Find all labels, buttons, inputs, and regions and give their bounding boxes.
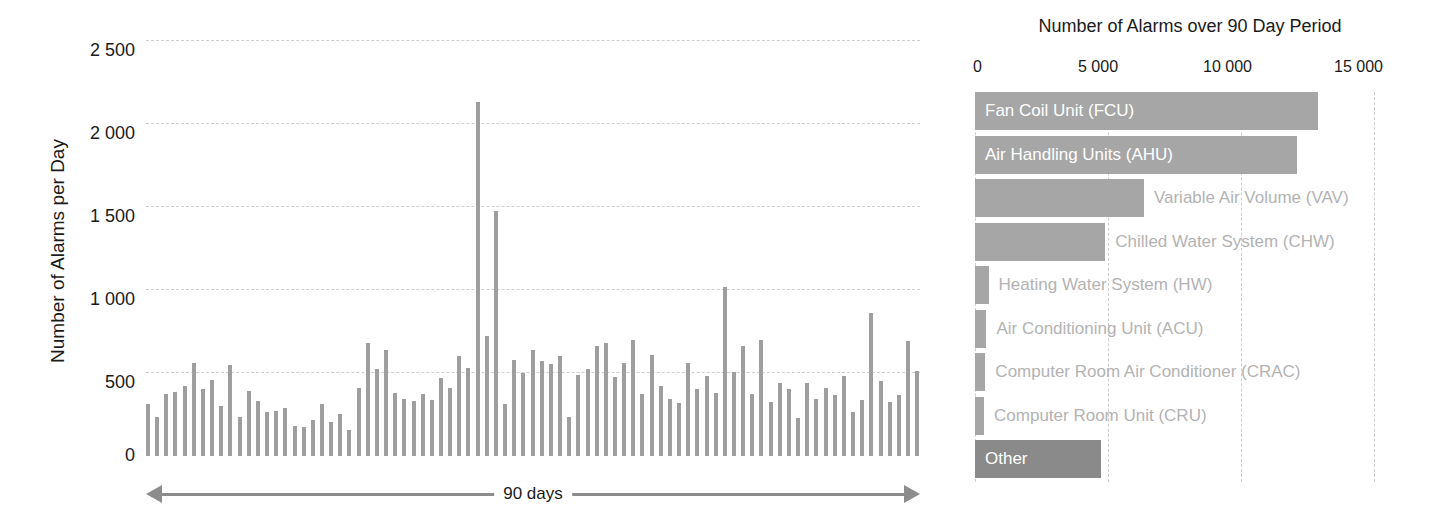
y-tick-500: 500 <box>35 372 135 393</box>
x-axis-title: 90 days <box>494 482 572 506</box>
system-bar-row: Other <box>975 440 1375 478</box>
day-bar <box>723 287 727 456</box>
day-bar <box>384 350 388 456</box>
alarms-by-system-chart: Number of Alarms over 90 Day Period 0 5 … <box>960 0 1441 532</box>
system-bar <box>975 310 986 348</box>
day-bar <box>787 389 791 456</box>
system-bar-row: Variable Air Volume (VAV) <box>975 179 1375 217</box>
day-bar <box>457 356 461 456</box>
system-bar: Fan Coil Unit (FCU) <box>975 92 1318 130</box>
day-bar <box>192 363 196 456</box>
day-bar <box>485 336 489 456</box>
system-bar-row: Heating Water System (HW) <box>975 266 1375 304</box>
day-bar <box>146 404 150 456</box>
x-tick-5000: 5 000 <box>1078 58 1118 76</box>
system-bar <box>975 266 989 304</box>
day-bar <box>466 368 470 456</box>
day-bar <box>842 376 846 456</box>
day-bar <box>210 380 214 456</box>
day-bar <box>448 388 452 456</box>
day-bar <box>293 426 297 456</box>
day-bar <box>173 392 177 456</box>
day-bar <box>650 355 654 457</box>
day-bar <box>750 394 754 456</box>
day-bar <box>412 401 416 456</box>
day-bar <box>503 404 507 456</box>
y-tick-2500: 2 500 <box>35 40 135 61</box>
arrow-right-icon <box>904 485 920 503</box>
day-bar <box>540 361 544 456</box>
arrow-left-icon <box>146 485 162 503</box>
day-bar <box>879 381 883 456</box>
day-bar <box>677 403 681 456</box>
system-bar-label: Chilled Water System (CHW) <box>1105 232 1334 252</box>
day-bar <box>869 313 873 456</box>
day-bar <box>155 417 159 456</box>
day-bar <box>714 393 718 456</box>
day-bar <box>357 388 361 456</box>
day-bar <box>228 365 232 456</box>
day-bar <box>695 389 699 456</box>
system-bars: Fan Coil Unit (FCU)Air Handling Units (A… <box>975 92 1375 482</box>
system-bar-label: Computer Room Air Conditioner (CRAC) <box>985 362 1300 382</box>
system-bar <box>975 223 1105 261</box>
day-bar <box>393 393 397 456</box>
day-bar <box>686 363 690 456</box>
system-bar: Other <box>975 440 1101 478</box>
day-bar <box>631 340 635 456</box>
day-bar <box>622 363 626 456</box>
day-bar <box>613 377 617 456</box>
day-bar <box>659 386 663 456</box>
system-bar: Air Handling Units (AHU) <box>975 136 1297 174</box>
day-bar <box>906 341 910 456</box>
day-bar <box>421 394 425 456</box>
x-axis-ticks: 0 5 000 10 000 15 000 <box>960 58 1441 82</box>
day-bar <box>512 360 516 456</box>
day-bar <box>888 402 892 456</box>
day-bar <box>741 346 745 456</box>
day-bar <box>759 340 763 456</box>
system-bar <box>975 397 984 435</box>
system-bar-row: Computer Room Unit (CRU) <box>975 397 1375 435</box>
system-bar-label: Heating Water System (HW) <box>989 275 1213 295</box>
day-bar <box>247 391 251 456</box>
day-bar <box>531 350 535 456</box>
system-bar-row: Air Handling Units (AHU) <box>975 136 1375 174</box>
day-bar <box>705 376 709 456</box>
day-bar <box>769 402 773 456</box>
day-bar <box>283 408 287 456</box>
day-bar <box>347 430 351 456</box>
day-bar <box>494 211 498 456</box>
system-bar-row: Air Conditioning Unit (ACU) <box>975 310 1375 348</box>
day-bar <box>320 404 324 456</box>
y-tick-0: 0 <box>35 445 135 466</box>
system-bar-label: Computer Room Unit (CRU) <box>984 406 1207 426</box>
day-bar <box>567 417 571 456</box>
day-bar <box>311 420 315 456</box>
day-bar <box>366 343 370 456</box>
day-bar <box>814 399 818 456</box>
system-bar-label: Air Conditioning Unit (ACU) <box>986 319 1203 339</box>
day-bar <box>549 364 553 456</box>
day-bar <box>640 394 644 456</box>
day-bar <box>833 395 837 456</box>
alarms-per-day-plot-area <box>146 40 920 456</box>
day-bar <box>183 386 187 456</box>
day-bar <box>824 388 828 456</box>
day-bar <box>668 399 672 456</box>
day-bar <box>164 394 168 456</box>
system-bar-row: Fan Coil Unit (FCU) <box>975 92 1375 130</box>
system-bar <box>975 179 1144 217</box>
day-bar <box>586 369 590 456</box>
system-bar-row: Computer Room Air Conditioner (CRAC) <box>975 353 1375 391</box>
day-bars <box>146 40 920 456</box>
day-bar <box>897 395 901 456</box>
day-bar <box>595 346 599 456</box>
day-bar <box>805 383 809 456</box>
day-bar <box>558 356 562 456</box>
x-tick-10000: 10 000 <box>1203 58 1252 76</box>
system-bar-label: Other <box>975 449 1028 469</box>
chart-title: Number of Alarms over 90 Day Period <box>960 16 1420 37</box>
x-tick-15000: 15 000 <box>1334 58 1383 76</box>
day-bar <box>338 414 342 456</box>
